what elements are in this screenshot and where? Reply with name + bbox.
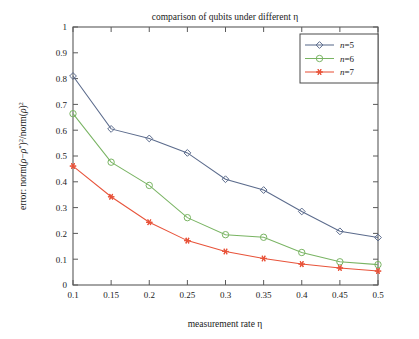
legend-label-n7: n=7 [340, 67, 355, 77]
x-tick-label: 0.4 [296, 290, 308, 300]
y-tick-label: 0.7 [56, 100, 68, 110]
y-tick-label: 0.6 [56, 126, 68, 136]
y-tick-label: 0.5 [56, 151, 68, 161]
x-tick-label: 0.25 [180, 290, 196, 300]
y-tick-label: 0.3 [56, 203, 68, 213]
legend-label-n6: n=6 [340, 54, 355, 64]
line-chart: comparison of qubits under different η 0… [0, 0, 419, 339]
x-tick-label: 0.2 [144, 290, 155, 300]
y-tick-label: 1 [63, 22, 68, 32]
y-tick-label: 0 [63, 280, 68, 290]
y-tick-label: 0.9 [56, 48, 68, 58]
x-tick-label: 0.45 [332, 290, 348, 300]
chart-legend: n=5n=6n=7 [300, 34, 378, 83]
chart-title: comparison of qubits under different η [152, 12, 298, 22]
x-axis-label: measurement rate η [188, 319, 263, 329]
x-tick-label: 0.1 [67, 290, 78, 300]
x-tick-label: 0.5 [372, 290, 384, 300]
x-tick-label: 0.15 [103, 290, 119, 300]
x-tick-label: 0.3 [220, 290, 232, 300]
x-tick-label: 0.35 [256, 290, 272, 300]
y-axis-label: error: norm(ρ−ρ*)2/norm(ρ)2 [17, 102, 30, 210]
y-tick-label: 0.2 [56, 229, 67, 239]
y-tick-label: 0.4 [56, 177, 68, 187]
y-axis-label-text: error: norm(ρ−ρ*)2/norm(ρ)2 [17, 102, 30, 210]
y-tick-label: 0.1 [56, 255, 67, 265]
chart-figure: comparison of qubits under different η 0… [0, 0, 419, 339]
legend-label-n5: n=5 [340, 40, 355, 50]
y-tick-label: 0.8 [56, 74, 68, 84]
